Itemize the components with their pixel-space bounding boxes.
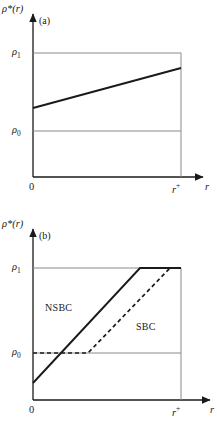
panel-a-xtick-rplus: r+ (172, 182, 180, 195)
panel-b-xtick-zero: 0 (29, 405, 34, 416)
panel-b-panel-label: (b) (39, 231, 51, 241)
panel-b-xtick-rplus: r+ (172, 405, 180, 418)
panel-b-y-axis-label: ρ*(r) (2, 219, 23, 230)
panel-b-plot (33, 229, 210, 400)
panel-a-y-axis-label: ρ*(r) (2, 4, 23, 15)
panel-b-nsbc-profile (33, 268, 181, 383)
panel-a-ytick-rho1: ρ1 (12, 47, 21, 60)
panel-a-density-profile (33, 68, 181, 108)
panel-b-region-nsbc: NSBC (45, 303, 72, 313)
panel-b-x-axis-label: r (210, 405, 214, 416)
panel-a-x-axis-label: r (205, 182, 209, 193)
figure-canvas (0, 0, 217, 427)
panel-a-xtick-zero: 0 (29, 182, 34, 193)
panel-b-region-sbc: SBC (136, 322, 156, 332)
figure-root: ρ*(r) (a) ρ1 ρ0 0 r+ r ρ*(r) (b) ρ1 ρ0 N… (0, 0, 217, 427)
panel-a-ytick-rho0: ρ0 (12, 125, 21, 138)
panel-b-ytick-rho0: ρ0 (12, 347, 21, 360)
panel-a-plot (33, 14, 203, 177)
panel-b-ytick-rho1: ρ1 (12, 262, 21, 275)
panel-a-panel-label: (a) (39, 16, 50, 26)
